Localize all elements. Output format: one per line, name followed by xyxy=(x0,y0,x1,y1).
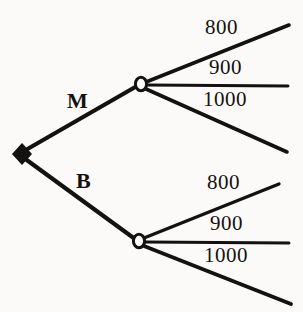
chance-node-m-circle[interactable] xyxy=(135,77,146,91)
edge-m-outcome-900 xyxy=(147,85,288,86)
branch-label-b: B xyxy=(76,170,91,192)
outcome-label-b-900: 900 xyxy=(210,213,243,234)
outcome-label-b-800: 800 xyxy=(207,172,240,193)
outcome-label-m-900: 900 xyxy=(209,57,242,78)
outcome-label-m-800: 800 xyxy=(205,17,238,38)
tree-graphics xyxy=(0,0,303,312)
chance-node-b-circle[interactable] xyxy=(133,234,144,248)
outcome-label-b-1000: 1000 xyxy=(204,245,248,266)
decision-tree-diagram: M B 800 900 1000 800 900 1000 xyxy=(0,0,303,312)
branch-label-m: M xyxy=(67,90,88,112)
outcome-label-m-1000: 1000 xyxy=(203,89,247,110)
